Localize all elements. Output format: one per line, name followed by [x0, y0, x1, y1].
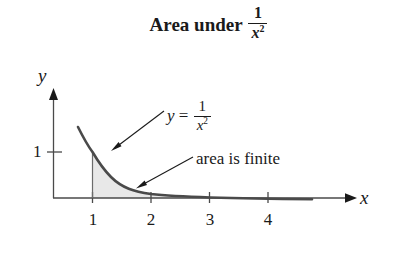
area-note-leader-line [140, 157, 193, 186]
x-tick-label-2: 2 [141, 211, 161, 228]
x-axis-arrowhead [345, 193, 357, 203]
equation-leader-arrowhead [111, 142, 122, 151]
curve-equation-fraction-numerator: 1 [194, 99, 211, 115]
figure-area-under-one-over-x-squared: Area under 1x2 y x 1 1 [0, 0, 418, 259]
curve-equation-relation: = [179, 106, 189, 125]
x-tick-label-3: 3 [200, 211, 220, 228]
curve-equation-label: y = 1x2 [167, 100, 212, 135]
area-is-finite-label: area is finite [196, 150, 280, 167]
x-tick-label-1: 1 [83, 211, 103, 228]
curve-equation-fraction-denominator: x2 [194, 118, 211, 134]
y-axis-label: y [38, 66, 46, 85]
curve-equation-lhs: y [167, 106, 175, 125]
equation-leader-line [115, 111, 164, 148]
area-note-leader-arrowhead [136, 181, 147, 189]
x-tick-label-4: 4 [258, 211, 278, 228]
curve-equation-fraction: 1x2 [194, 99, 211, 134]
y-axis-arrowhead [49, 88, 58, 100]
y-tick-label-1: 1 [33, 143, 42, 160]
curve-equation-denominator-exponent: 2 [203, 116, 208, 126]
x-axis-label: x [360, 188, 368, 207]
